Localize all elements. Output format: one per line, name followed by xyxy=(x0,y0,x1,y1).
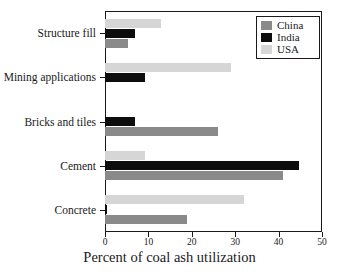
x-axis-title: Percent of coal ash utilization xyxy=(0,248,339,266)
x-tick-label: 30 xyxy=(215,237,255,248)
legend-label-china: China xyxy=(277,20,303,31)
y-tick-mark xyxy=(100,77,105,78)
bar-india xyxy=(105,29,135,38)
bar-usa xyxy=(105,195,244,204)
legend-swatch-china-icon xyxy=(261,21,272,30)
bar-india xyxy=(105,205,107,214)
x-tick-label: 50 xyxy=(302,237,339,248)
category-label: Cement xyxy=(60,160,96,172)
bar-india xyxy=(105,73,145,82)
bar-china xyxy=(105,171,283,180)
bar-chart-figure: ConcreteCementBricks and tilesMining app… xyxy=(0,0,339,272)
legend-label-usa: USA xyxy=(277,44,299,55)
x-tick-label: 0 xyxy=(85,237,125,248)
bar-china xyxy=(105,39,128,48)
legend-swatch-india-icon xyxy=(261,33,272,42)
legend-item-india: India xyxy=(261,32,315,43)
y-tick-mark xyxy=(100,122,105,123)
legend-swatch-usa-icon xyxy=(261,45,272,54)
legend-item-china: China xyxy=(261,20,315,31)
bar-usa xyxy=(105,151,145,160)
bar-india xyxy=(105,161,299,170)
bar-china xyxy=(105,215,187,224)
category-label: Structure fill xyxy=(38,27,96,39)
bar-group xyxy=(105,195,322,224)
y-tick-mark xyxy=(100,166,105,167)
y-tick-mark xyxy=(100,33,105,34)
category-label: Bricks and tiles xyxy=(24,116,96,128)
legend-item-usa: USA xyxy=(261,44,315,55)
category-label: Concrete xyxy=(54,204,96,216)
x-tick-label: 40 xyxy=(259,237,299,248)
category-label: Mining applications xyxy=(4,71,96,83)
bar-india xyxy=(105,117,135,126)
x-tick-label: 10 xyxy=(128,237,168,248)
legend-label-india: India xyxy=(277,32,300,43)
bar-group xyxy=(105,107,322,136)
bar-usa xyxy=(105,19,161,28)
bar-china xyxy=(105,127,218,136)
bar-usa xyxy=(105,63,231,72)
chart-legend: China India USA xyxy=(256,16,320,59)
y-tick-mark xyxy=(100,210,105,211)
bar-group xyxy=(105,151,322,180)
bar-group xyxy=(105,63,322,92)
x-tick-label: 20 xyxy=(172,237,212,248)
